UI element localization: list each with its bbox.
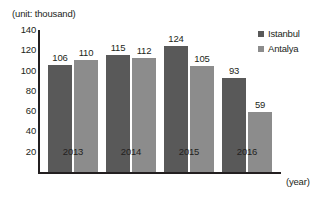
y-axis-tick-label: 40 (0, 126, 36, 136)
legend-item-antalya[interactable]: Antalya (258, 41, 300, 56)
legend-label: Antalya (268, 43, 298, 54)
bar-value-label: 105 (194, 53, 209, 64)
y-axis-tick-label: 80 (0, 86, 36, 96)
y-axis-line (38, 30, 40, 173)
y-axis-tick-label: 120 (0, 45, 36, 55)
bar-value-label: 124 (168, 33, 183, 44)
y-axis-tick-label: 140 (0, 25, 36, 35)
legend-item-istanbul[interactable]: Istanbul (258, 26, 300, 41)
y-axis-tick-label: 60 (0, 106, 36, 116)
x-axis-line (38, 172, 281, 174)
x-axis-tick-label-2016: 2016 (217, 146, 277, 157)
bar-value-label: 112 (137, 45, 152, 56)
bar-chart: (unit: thousand) 14012010080604020 10611… (0, 0, 321, 203)
chart-legend: IstanbulAntalya (258, 26, 300, 56)
bar-value-label: 93 (229, 65, 239, 76)
x-axis-unit-note: (year) (286, 176, 310, 187)
y-axis-tick-label: 100 (0, 66, 36, 76)
y-axis-tick-label: 20 (0, 147, 36, 157)
legend-swatch-icon (258, 31, 264, 37)
bar-value-label: 106 (52, 52, 67, 63)
legend-label: Istanbul (268, 28, 300, 39)
x-axis-tick-label-2014: 2014 (101, 146, 161, 157)
x-axis-tick-label-2015: 2015 (159, 146, 219, 157)
bar-value-label: 110 (79, 47, 94, 58)
bar-antalya-2016: 59 (248, 112, 272, 172)
bar-value-label: 115 (111, 42, 126, 53)
chart-unit-note: (unit: thousand) (12, 8, 76, 19)
bar-istanbul-2016: 93 (222, 78, 246, 172)
x-axis-tick-label-2013: 2013 (43, 146, 103, 157)
bar-value-label: 59 (255, 99, 265, 110)
legend-swatch-icon (258, 46, 264, 52)
